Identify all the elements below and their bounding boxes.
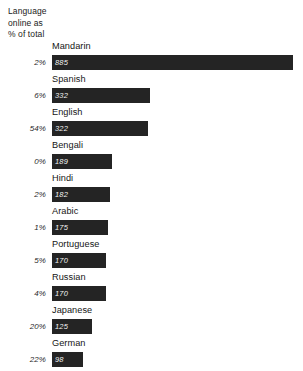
row-bar-value: 175 bbox=[55, 223, 68, 232]
row-bar-value: 189 bbox=[55, 157, 68, 166]
row-language-label: Japanese bbox=[52, 305, 92, 316]
row-language-label: Arabic bbox=[52, 206, 78, 217]
chart-row: 5%Portuguese170 bbox=[0, 239, 303, 272]
row-percent-label: 2% bbox=[0, 58, 46, 68]
row-percent-label: 6% bbox=[0, 91, 46, 101]
row-percent-label: 22% bbox=[0, 355, 46, 365]
row-percent-label: 1% bbox=[0, 223, 46, 233]
row-bar: 175 bbox=[52, 220, 108, 235]
row-language-label: German bbox=[52, 338, 86, 349]
row-bar-wrapper: 182 bbox=[52, 187, 110, 202]
chart-row: 0%Bengali189 bbox=[0, 140, 303, 173]
row-bar: 189 bbox=[52, 154, 112, 169]
row-language-label: Spanish bbox=[52, 74, 86, 85]
chart-row: 6%Spanish332 bbox=[0, 74, 303, 107]
row-language-label: Mandarin bbox=[52, 41, 91, 52]
row-bar-value: 322 bbox=[55, 124, 68, 133]
row-bar-value: 182 bbox=[55, 190, 68, 199]
chart-row: 1%Arabic175 bbox=[0, 206, 303, 239]
axis-caption: Language online as % of total bbox=[8, 6, 52, 41]
row-bar: 322 bbox=[52, 121, 148, 136]
chart-row: 2%Hindi182 bbox=[0, 173, 303, 206]
row-bar-wrapper: 125 bbox=[52, 319, 92, 334]
chart-row: 4%Russian170 bbox=[0, 272, 303, 305]
row-percent-label: 0% bbox=[0, 157, 46, 167]
axis-caption-line-2: online as bbox=[8, 18, 52, 30]
chart-row: 54%English322 bbox=[0, 107, 303, 140]
chart-row: 20%Japanese125 bbox=[0, 305, 303, 338]
row-bar-wrapper: 175 bbox=[52, 220, 108, 235]
row-bar-value: 170 bbox=[55, 256, 68, 265]
row-bar-value: 170 bbox=[55, 289, 68, 298]
row-percent-label: 4% bbox=[0, 289, 46, 299]
row-percent-label: 20% bbox=[0, 322, 46, 332]
row-bar-wrapper: 189 bbox=[52, 154, 112, 169]
row-language-label: Hindi bbox=[52, 173, 73, 184]
row-language-label: Bengali bbox=[52, 140, 83, 151]
row-bar: 170 bbox=[52, 253, 106, 268]
row-language-label: Russian bbox=[52, 272, 86, 283]
row-percent-label: 54% bbox=[0, 124, 46, 134]
row-bar-value: 332 bbox=[55, 91, 68, 100]
row-bar-wrapper: 322 bbox=[52, 121, 148, 136]
row-bar: 885 bbox=[52, 55, 293, 70]
chart-row: 22%German98 bbox=[0, 338, 303, 371]
row-bar-wrapper: 170 bbox=[52, 253, 106, 268]
row-percent-label: 5% bbox=[0, 256, 46, 266]
row-bar: 125 bbox=[52, 319, 92, 334]
row-language-label: Portuguese bbox=[52, 239, 100, 250]
row-bar-wrapper: 170 bbox=[52, 286, 106, 301]
axis-caption-line-3: % of total bbox=[8, 29, 52, 41]
row-bar: 98 bbox=[52, 352, 83, 367]
row-bar: 332 bbox=[52, 88, 150, 103]
chart-rows: 2%Mandarin8856%Spanish33254%English3220%… bbox=[0, 41, 303, 371]
row-bar-value: 125 bbox=[55, 322, 68, 331]
row-language-label: English bbox=[52, 107, 82, 118]
row-bar-value: 885 bbox=[55, 58, 68, 67]
row-bar-wrapper: 885 bbox=[52, 55, 293, 70]
row-bar: 170 bbox=[52, 286, 106, 301]
row-bar-wrapper: 98 bbox=[52, 352, 83, 367]
row-bar: 182 bbox=[52, 187, 110, 202]
row-bar-value: 98 bbox=[55, 355, 64, 364]
row-percent-label: 2% bbox=[0, 190, 46, 200]
row-bar-wrapper: 332 bbox=[52, 88, 150, 103]
chart-row: 2%Mandarin885 bbox=[0, 41, 303, 74]
axis-caption-line-1: Language bbox=[8, 6, 52, 18]
